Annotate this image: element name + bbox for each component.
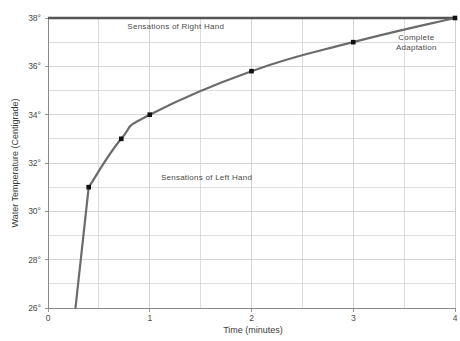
x-axis-title: Time (minutes): [223, 325, 283, 335]
y-tick-label: 28°: [28, 255, 41, 265]
y-tick-label: 32°: [28, 158, 41, 168]
chart-annotation-label: Sensations of Left Hand: [161, 173, 252, 182]
chart-annotation-label: Complete: [398, 33, 435, 42]
data-point-marker: [249, 69, 254, 74]
chart-figure: 26°28°30°32°34°36°38° 01234 Sensations o…: [0, 0, 460, 341]
chart-annotation-label: Sensations of Right Hand: [127, 22, 224, 31]
x-tick-label: 1: [147, 313, 152, 323]
y-tick-label: 36°: [28, 61, 41, 71]
adaptation-line-chart: 26°28°30°32°34°36°38° 01234 Sensations o…: [0, 0, 460, 341]
data-point-marker: [147, 112, 152, 117]
x-tick-label: 0: [46, 313, 51, 323]
y-tick-label: 30°: [28, 206, 41, 216]
x-tick-label: 3: [351, 313, 356, 323]
data-point-marker: [351, 40, 356, 45]
y-tick-label: 34°: [28, 110, 41, 120]
x-tick-label: 4: [453, 313, 458, 323]
data-point-marker: [453, 16, 458, 21]
y-tick-label: 26°: [28, 303, 41, 313]
chart-background: [0, 0, 460, 341]
y-axis-title: Water Temperature (Centigrade): [10, 98, 20, 227]
data-point-marker: [86, 185, 91, 190]
data-point-marker: [119, 137, 124, 142]
x-tick-label: 2: [249, 313, 254, 323]
chart-annotation-label: Adaptation: [396, 43, 437, 52]
y-tick-label: 38°: [28, 13, 41, 23]
